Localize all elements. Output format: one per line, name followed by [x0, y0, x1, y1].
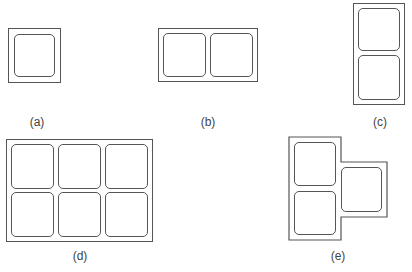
figure-e-label: (e) — [331, 249, 346, 263]
figure-e-cell — [294, 142, 336, 186]
figure-e-cell — [341, 167, 382, 212]
figure-e-outer-frame — [0, 0, 412, 272]
figure-e-cell — [294, 191, 336, 235]
